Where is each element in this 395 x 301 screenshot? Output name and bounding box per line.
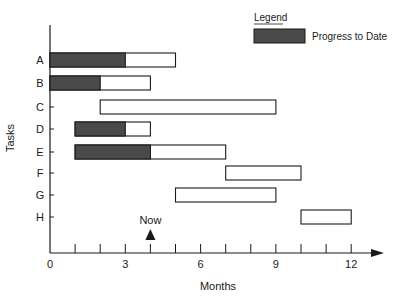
legend-title: Legend xyxy=(254,12,287,23)
task-bar-f xyxy=(226,166,301,180)
gantt-chart: 036912ABCDEFGHMonthsTasksNowLegendProgre… xyxy=(0,0,395,301)
y-axis-title: Tasks xyxy=(4,123,16,152)
y-tick-label: G xyxy=(36,189,45,201)
legend-swatch xyxy=(254,29,305,43)
progress-bar-a xyxy=(50,53,125,67)
y-tick-label: A xyxy=(36,54,44,66)
y-tick-label: B xyxy=(36,77,43,89)
x-tick-label: 9 xyxy=(273,258,279,270)
x-tick-label: 12 xyxy=(345,258,357,270)
task-bar-g xyxy=(176,188,276,202)
progress-bar-d xyxy=(75,122,125,136)
y-tick-label: D xyxy=(36,123,44,135)
task-bar-c xyxy=(100,100,276,114)
y-tick-label: F xyxy=(37,167,44,179)
y-tick-label: E xyxy=(36,146,43,158)
y-tick-label: H xyxy=(36,211,44,223)
now-label: Now xyxy=(139,214,161,226)
x-tick-label: 0 xyxy=(47,258,53,270)
progress-bar-e xyxy=(75,145,150,159)
x-axis-title: Months xyxy=(200,280,237,292)
now-marker-icon xyxy=(145,229,155,240)
progress-bar-b xyxy=(50,76,100,90)
x-tick-label: 3 xyxy=(122,258,128,270)
legend-entry-label: Progress to Date xyxy=(312,31,387,42)
x-tick-label: 6 xyxy=(198,258,204,270)
y-tick-label: C xyxy=(36,101,44,113)
x-axis-arrow-icon xyxy=(371,249,384,257)
task-bar-h xyxy=(301,210,351,224)
